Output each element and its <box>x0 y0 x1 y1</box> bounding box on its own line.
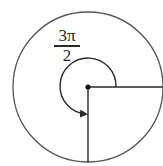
angle-label-numerator: 3π <box>52 27 82 44</box>
angle-label-denominator: 2 <box>52 47 82 64</box>
vertex-dot <box>85 84 90 89</box>
angle-diagram <box>0 0 163 166</box>
